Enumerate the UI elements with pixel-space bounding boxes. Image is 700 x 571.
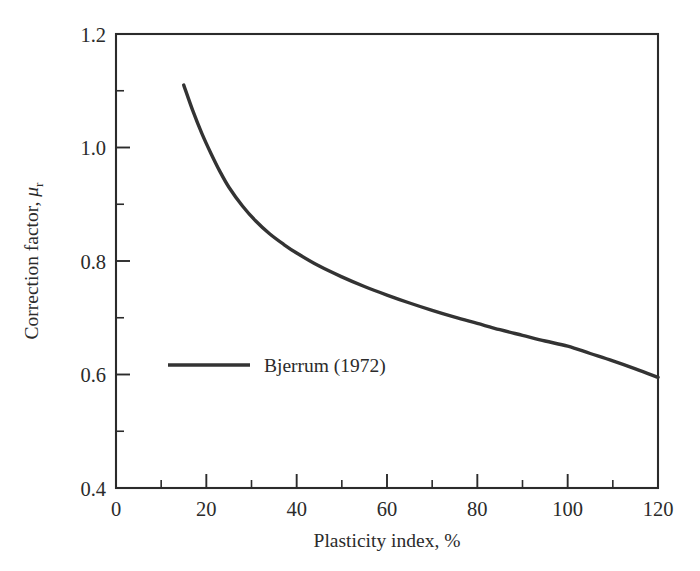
- y-tick-label: 1.2: [80, 24, 106, 46]
- y-tick-labels: 0.4 0.6 0.8 1.0 1.2: [80, 24, 106, 500]
- x-tick-label: 40: [286, 498, 307, 520]
- y-axis-title-main: Correction factor,: [21, 197, 42, 340]
- x-tick-label: 100: [552, 498, 583, 520]
- data-series-line-bjerrum-1972: [184, 85, 658, 377]
- x-tick-label: 120: [643, 498, 674, 520]
- y-axis-title-subscript: r: [31, 182, 46, 187]
- x-tick-label: 0: [111, 498, 121, 520]
- y-axis-title: Correction factor, μr: [21, 182, 46, 340]
- legend-label-bjerrum-1972: Bjerrum (1972): [264, 355, 386, 377]
- y-tick-label: 0.8: [80, 251, 106, 273]
- x-tick-label: 60: [377, 498, 398, 520]
- chart-plot-svg: 0 20 40 60 80 100 120 0.4 0.6 0.8 1.0 1.…: [0, 0, 700, 571]
- plot-frame: [116, 34, 658, 488]
- x-tick-labels: 0 20 40 60 80 100 120: [111, 498, 674, 520]
- x-tick-label: 20: [196, 498, 217, 520]
- chart-figure: 0 20 40 60 80 100 120 0.4 0.6 0.8 1.0 1.…: [0, 0, 700, 571]
- x-axis-title: Plasticity index, %: [314, 530, 461, 551]
- chart-legend: Bjerrum (1972): [168, 355, 386, 377]
- y-tick-label: 0.6: [80, 364, 106, 386]
- y-tick-label: 0.4: [80, 478, 106, 500]
- y-axis-title-symbol: μ: [21, 187, 42, 198]
- x-tick-label: 80: [467, 498, 488, 520]
- x-axis-ticks: [116, 474, 658, 488]
- y-tick-label: 1.0: [80, 137, 106, 159]
- y-axis-ticks: [116, 34, 130, 488]
